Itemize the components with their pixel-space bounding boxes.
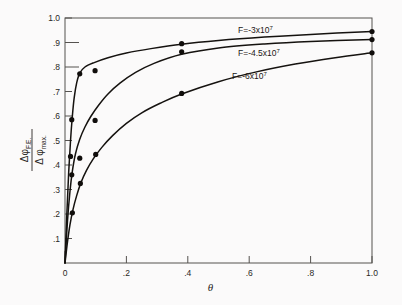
data-point	[70, 210, 75, 215]
y-axis-title: ΔφF.E.Δ φmax.	[19, 129, 47, 171]
y-tick-label: .6	[53, 111, 60, 121]
y-tick-label: .4	[53, 160, 60, 170]
y-tick-label: 1.0	[48, 13, 60, 23]
x-tick-label: 1.0	[366, 268, 378, 278]
y-tick-label: .5	[53, 136, 60, 146]
axis-tick-labels: 0.2.4.6.81.0.1.2.3.4.5.6.7.8.91.0	[48, 13, 378, 278]
data-point	[92, 68, 97, 73]
data-point	[369, 50, 374, 55]
data-point	[69, 117, 74, 122]
data-point	[77, 156, 82, 161]
y-axis-title-group: ΔφF.E.Δ φmax.	[19, 129, 47, 171]
data-markers	[68, 29, 375, 215]
curve-label-0: F=-3x107	[238, 25, 273, 36]
y-axis-denominator: Δ φmax.	[34, 135, 47, 165]
chart-svg: 0.2.4.6.81.0.1.2.3.4.5.6.7.8.91.0 F=-3x1…	[0, 0, 402, 305]
axis-ticks	[65, 18, 372, 263]
plot-frame	[65, 18, 372, 263]
x-axis-title: θ	[208, 281, 214, 293]
y-tick-label: .8	[53, 62, 60, 72]
data-point	[179, 49, 184, 54]
figure-container: 0.2.4.6.81.0.1.2.3.4.5.6.7.8.91.0 F=-3x1…	[0, 0, 402, 305]
data-point	[369, 29, 374, 34]
data-point	[179, 91, 184, 96]
data-point	[93, 152, 98, 157]
x-tick-label: .2	[123, 268, 130, 278]
series-curve-1	[65, 40, 372, 263]
x-tick-label: .4	[184, 268, 191, 278]
y-tick-label: .7	[53, 87, 60, 97]
curve-label-1: F=-4.5x107	[238, 48, 281, 59]
series-curve-2	[65, 53, 372, 263]
x-tick-label: .8	[307, 268, 314, 278]
plot-axes	[65, 18, 372, 263]
data-point	[68, 154, 73, 159]
y-tick-label: .1	[53, 234, 60, 244]
data-point	[77, 71, 82, 76]
data-point	[179, 41, 184, 46]
x-axis-title-text: θ	[208, 281, 214, 293]
data-point	[369, 37, 374, 42]
data-point	[78, 181, 83, 186]
y-axis-numerator: ΔφF.E.	[19, 138, 32, 163]
data-point	[69, 172, 74, 177]
y-tick-label: .9	[53, 38, 60, 48]
curve-label-2: F=-6x107	[232, 71, 267, 82]
curve-annotations: F=-3x107F=-4.5x107F=-6x107	[232, 25, 281, 82]
x-tick-label: .6	[246, 268, 253, 278]
y-tick-label: .3	[53, 185, 60, 195]
series-curve-0	[65, 31, 372, 263]
x-tick-label: 0	[63, 268, 68, 278]
y-tick-label: .2	[53, 209, 60, 219]
data-curves	[65, 31, 372, 263]
data-point	[92, 118, 97, 123]
